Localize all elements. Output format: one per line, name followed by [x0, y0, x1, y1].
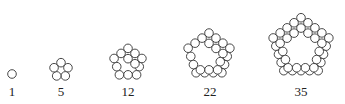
dot	[278, 47, 287, 56]
dot	[131, 59, 140, 68]
dot	[318, 39, 327, 48]
dot	[61, 72, 70, 81]
dot	[290, 29, 299, 38]
dot	[132, 71, 141, 80]
label-22: 22	[204, 84, 217, 100]
label-5: 5	[58, 84, 65, 100]
dot	[284, 63, 293, 72]
dot	[205, 66, 214, 75]
pentagon-figure-22	[184, 29, 234, 77]
dot	[196, 66, 205, 75]
dot	[312, 55, 321, 64]
label-12: 12	[122, 84, 135, 100]
dot	[112, 62, 121, 71]
label-35: 35	[295, 84, 308, 100]
pentagonal-numbers-diagram	[0, 0, 345, 104]
dot	[124, 71, 133, 80]
dot	[310, 63, 319, 72]
dot	[292, 63, 301, 72]
pentagon-figure-35	[269, 13, 333, 75]
pentagon-figure-12	[110, 44, 146, 79]
pentagon-figure-1	[8, 70, 17, 79]
dot	[315, 47, 324, 56]
dot	[64, 63, 73, 72]
dot	[50, 63, 59, 72]
dot	[186, 52, 195, 61]
dot	[52, 72, 61, 81]
dot	[115, 71, 124, 80]
dot	[213, 66, 222, 75]
dot	[281, 55, 290, 64]
dot	[216, 57, 225, 66]
pentagon-figure-5	[50, 58, 73, 80]
label-1: 1	[9, 84, 16, 100]
dot	[219, 49, 228, 58]
dot	[301, 63, 310, 72]
dot	[8, 70, 17, 79]
